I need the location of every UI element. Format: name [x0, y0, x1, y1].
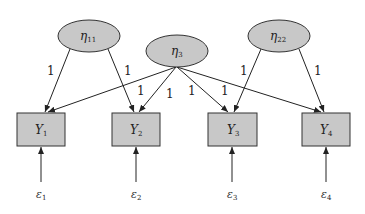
loading-label-eta3-y1: 1: [137, 84, 145, 98]
latent-factor-eta22: η22: [248, 20, 310, 52]
loading-label-eta22-y3: 1: [240, 64, 248, 78]
loading-label-eta11-y2: 1: [124, 64, 132, 78]
error-e2: ε2: [131, 188, 141, 202]
error-e4: ε4: [321, 188, 332, 202]
loading-label-eta22-y4: 1: [314, 64, 322, 78]
path-eta3-y4: [177, 67, 321, 112]
path-eta11-y2: [108, 49, 134, 112]
observed-variable-y1: Y1: [17, 113, 65, 146]
path-eta11-y1: [45, 49, 70, 112]
path-eta3-y1: [48, 67, 176, 112]
latent-factor-eta11: η11: [58, 20, 120, 52]
error-e1: ε1: [36, 188, 46, 202]
loading-label-eta3-y4: 1: [221, 84, 229, 98]
observed-variable-y2: Y2: [112, 113, 160, 146]
observed-variable-y4: Y4: [302, 113, 350, 146]
loading-label-eta11-y1: 1: [47, 64, 55, 78]
path-eta22-y3: [234, 49, 261, 112]
loading-label-eta3-y3: 1: [188, 84, 196, 98]
path-eta22-y4: [299, 49, 324, 112]
latent-factor-eta3: η3: [146, 35, 208, 67]
loading-label-eta3-y2: 1: [166, 87, 174, 101]
observed-variable-y3: Y3: [208, 113, 257, 146]
error-e3: ε3: [227, 188, 237, 202]
path-diagram: 1 1 1 1 1 1 1 1 η11 η3 η22 Y1 Y2 Y3 Y4 ε…: [0, 0, 365, 214]
